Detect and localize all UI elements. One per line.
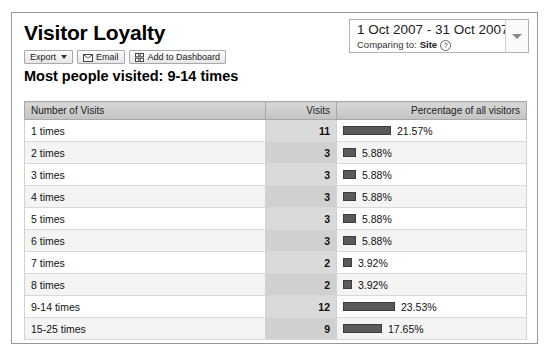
cell-number-of-visits: 15-25 times xyxy=(25,318,266,340)
date-range-comparison: Comparing to: Site ? xyxy=(357,39,505,51)
cell-number-of-visits: 3 times xyxy=(25,164,266,186)
cell-number-of-visits: 5 times xyxy=(25,208,266,230)
percentage-bar-group: 5.88% xyxy=(343,213,520,225)
percentage-label: 5.88% xyxy=(362,235,392,247)
cell-number-of-visits: 2 times xyxy=(25,142,266,164)
visitor-loyalty-table: Number of Visits Visits Percentage of al… xyxy=(24,101,527,340)
export-button-label: Export xyxy=(30,51,56,64)
cell-percentage: 17.65% xyxy=(337,318,527,340)
date-range-toggle-button[interactable] xyxy=(505,20,528,52)
percentage-bar-group: 5.88% xyxy=(343,147,520,159)
percentage-bar xyxy=(343,280,352,289)
percentage-bar xyxy=(343,192,356,201)
grid-icon xyxy=(135,53,145,61)
table-body: 1 times1121.57%2 times35.88%3 times35.88… xyxy=(25,120,527,340)
column-header-number-of-visits[interactable]: Number of Visits xyxy=(25,102,266,120)
cell-percentage: 5.88% xyxy=(337,164,527,186)
percentage-bar xyxy=(343,236,356,245)
percentage-bar-group: 3.92% xyxy=(343,257,520,269)
cell-percentage: 21.57% xyxy=(337,120,527,142)
cell-visits: 11 xyxy=(266,120,337,142)
table-row: 3 times35.88% xyxy=(25,164,527,186)
cell-visits: 2 xyxy=(266,274,337,296)
percentage-bar-group: 17.65% xyxy=(343,323,520,335)
date-range-text: 1 Oct 2007 - 31 Oct 2007 Comparing to: S… xyxy=(350,20,505,52)
percentage-bar xyxy=(343,258,352,267)
cell-visits: 9 xyxy=(266,318,337,340)
cell-number-of-visits: 9-14 times xyxy=(25,296,266,318)
date-range-selector[interactable]: 1 Oct 2007 - 31 Oct 2007 Comparing to: S… xyxy=(349,19,529,53)
add-to-dashboard-button[interactable]: Add to Dashboard xyxy=(129,50,227,64)
percentage-bar xyxy=(343,302,395,311)
cell-number-of-visits: 8 times xyxy=(25,274,266,296)
table-row: 8 times23.92% xyxy=(25,274,527,296)
percentage-label: 3.92% xyxy=(358,257,388,269)
table-row: 4 times35.88% xyxy=(25,186,527,208)
percentage-bar-group: 5.88% xyxy=(343,191,520,203)
cell-number-of-visits: 6 times xyxy=(25,230,266,252)
cell-visits: 3 xyxy=(266,142,337,164)
email-button[interactable]: Email xyxy=(77,50,125,64)
column-header-percentage[interactable]: Percentage of all visitors xyxy=(337,102,527,120)
percentage-label: 21.57% xyxy=(397,125,433,137)
cell-percentage: 23.53% xyxy=(337,296,527,318)
percentage-bar-group: 3.92% xyxy=(343,279,520,291)
table-row: 15-25 times917.65% xyxy=(25,318,527,340)
cell-percentage: 5.88% xyxy=(337,142,527,164)
cell-number-of-visits: 4 times xyxy=(25,186,266,208)
percentage-bar xyxy=(343,148,356,157)
help-icon[interactable]: ? xyxy=(440,40,451,51)
report-header: Visitor Loyalty Export Email xyxy=(12,13,537,97)
percentage-bar-group: 5.88% xyxy=(343,235,520,247)
table-row: 5 times35.88% xyxy=(25,208,527,230)
percentage-label: 5.88% xyxy=(362,169,392,181)
comparing-to-value: Site xyxy=(420,39,437,51)
cell-visits: 3 xyxy=(266,186,337,208)
percentage-bar xyxy=(343,170,356,179)
percentage-label: 5.88% xyxy=(362,213,392,225)
export-button[interactable]: Export xyxy=(24,50,73,64)
cell-visits: 3 xyxy=(266,230,337,252)
visitor-loyalty-report-panel: Visitor Loyalty Export Email xyxy=(11,12,538,344)
cell-visits: 3 xyxy=(266,208,337,230)
percentage-bar xyxy=(343,324,382,333)
percentage-bar-group: 23.53% xyxy=(343,301,520,313)
percentage-bar xyxy=(343,126,391,135)
table-header-row: Number of Visits Visits Percentage of al… xyxy=(25,102,527,120)
cell-percentage: 5.88% xyxy=(337,230,527,252)
cell-percentage: 5.88% xyxy=(337,208,527,230)
cell-number-of-visits: 1 times xyxy=(25,120,266,142)
date-range-value: 1 Oct 2007 - 31 Oct 2007 xyxy=(357,22,505,38)
column-header-visits[interactable]: Visits xyxy=(266,102,337,120)
cell-visits: 3 xyxy=(266,164,337,186)
percentage-bar xyxy=(343,214,356,223)
page-title: Visitor Loyalty xyxy=(24,21,165,45)
report-toolbar: Export Email xyxy=(24,50,226,64)
percentage-bar-group: 21.57% xyxy=(343,125,520,137)
percentage-bar-group: 5.88% xyxy=(343,169,520,181)
envelope-icon xyxy=(83,53,93,61)
percentage-label: 5.88% xyxy=(362,191,392,203)
cell-visits: 2 xyxy=(266,252,337,274)
cell-percentage: 3.92% xyxy=(337,252,527,274)
percentage-label: 17.65% xyxy=(388,323,424,335)
add-to-dashboard-label: Add to Dashboard xyxy=(148,51,221,64)
cell-percentage: 5.88% xyxy=(337,186,527,208)
percentage-label: 5.88% xyxy=(362,147,392,159)
table-row: 9-14 times1223.53% xyxy=(25,296,527,318)
chevron-down-icon xyxy=(61,55,67,59)
cell-number-of-visits: 7 times xyxy=(25,252,266,274)
table-row: 7 times23.92% xyxy=(25,252,527,274)
table-row: 1 times1121.57% xyxy=(25,120,527,142)
percentage-label: 3.92% xyxy=(358,279,388,291)
email-button-label: Email xyxy=(96,51,119,64)
cell-visits: 12 xyxy=(266,296,337,318)
comparing-to-label: Comparing to: xyxy=(357,39,417,51)
table-row: 2 times35.88% xyxy=(25,142,527,164)
section-subtitle: Most people visited: 9-14 times xyxy=(24,68,238,84)
percentage-label: 23.53% xyxy=(401,301,437,313)
table-row: 6 times35.88% xyxy=(25,230,527,252)
cell-percentage: 3.92% xyxy=(337,274,527,296)
chevron-down-icon xyxy=(512,34,522,39)
